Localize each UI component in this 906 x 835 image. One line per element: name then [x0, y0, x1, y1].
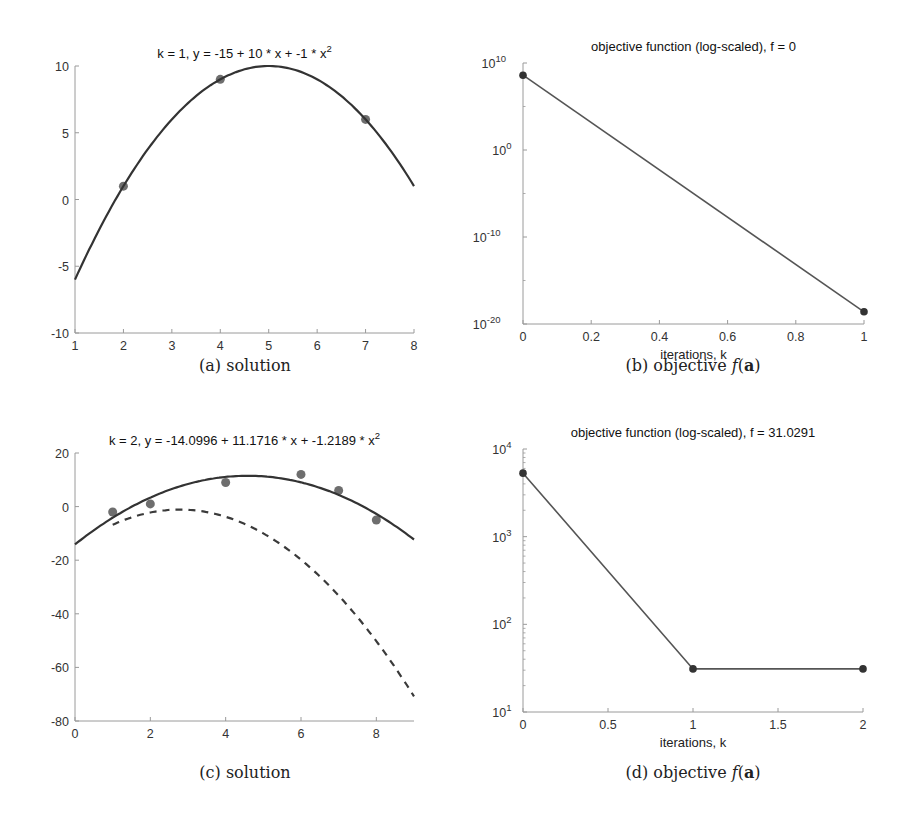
y-tick-label: 104	[492, 439, 511, 457]
fit-curve	[75, 66, 414, 280]
x-tick-label: 6	[314, 339, 321, 353]
x-tick-label: 1.5	[769, 718, 786, 732]
data-point	[146, 499, 155, 508]
x-tick-label: 0.5	[599, 718, 616, 732]
y-tick-label: -60	[51, 661, 69, 675]
x-tick-label: 3	[168, 339, 175, 353]
x-tick-label: 1	[72, 339, 79, 353]
objective-line	[523, 75, 864, 312]
fit-curve	[75, 476, 414, 545]
data-point	[221, 478, 230, 487]
caption-b-arg: a	[744, 356, 754, 375]
x-tick-label: 2	[147, 727, 154, 741]
y-tick-label: 10-20	[473, 314, 501, 332]
y-tick-label: 5	[62, 127, 69, 141]
objective-point	[859, 665, 867, 673]
y-tick-label: 103	[492, 527, 511, 545]
x-axis-label: iterations, k	[660, 735, 727, 750]
figure: 12345678-10-50510k = 1, y = -15 + 10 * x…	[0, 0, 906, 835]
y-tick-label: 100	[492, 140, 511, 158]
chart-title: objective function (log-scaled), f = 31.…	[571, 425, 816, 440]
y-tick-label: 20	[55, 447, 69, 461]
x-tick-label: 8	[411, 339, 418, 353]
x-tick-label: 0	[72, 727, 79, 741]
caption-c: (c) solution	[95, 763, 395, 782]
caption-a: (a) solution	[95, 356, 395, 375]
x-tick-label: 0.6	[719, 330, 736, 344]
x-tick-label: 0.2	[583, 330, 600, 344]
x-tick-label: 0.4	[651, 330, 668, 344]
panel-d-objective-plot: 00.511.52101102103104objective function …	[492, 425, 867, 750]
caption-d-text: (d) objective	[625, 763, 726, 782]
y-tick-label: 0	[62, 194, 69, 208]
y-tick-label: -40	[51, 608, 69, 622]
y-tick-label: 101	[492, 702, 511, 720]
chart-title: k = 2, y = -14.0996 + 11.1716 * x + -1.2…	[109, 430, 380, 448]
caption-b-math: f	[732, 356, 738, 375]
y-tick-label: 10	[55, 60, 69, 74]
chart-title: objective function (log-scaled), f = 0	[591, 39, 796, 54]
objective-point	[860, 308, 868, 316]
caption-d-arg: a	[744, 763, 754, 782]
objective-point	[519, 469, 527, 477]
y-tick-label: -20	[51, 554, 69, 568]
y-tick-label: -5	[58, 260, 69, 274]
x-tick-label: 0	[520, 718, 527, 732]
panel-a-solution-plot: 12345678-10-50510k = 1, y = -15 + 10 * x…	[51, 43, 418, 353]
x-tick-label: 2	[860, 718, 867, 732]
previous-fit-curve	[113, 510, 414, 697]
caption-a-text: (a) solution	[199, 356, 291, 375]
x-tick-label: 0.8	[787, 330, 804, 344]
caption-c-text: (c) solution	[199, 763, 290, 782]
x-tick-label: 2	[120, 339, 127, 353]
caption-b: (b) objective f(a)	[543, 356, 843, 375]
x-tick-label: 7	[362, 339, 369, 353]
objective-point	[519, 71, 527, 79]
x-tick-label: 1	[690, 718, 697, 732]
caption-d: (d) objective f(a)	[543, 763, 843, 782]
x-tick-label: 8	[373, 727, 380, 741]
objective-point	[689, 665, 697, 673]
y-tick-label: -10	[51, 327, 69, 341]
panel-b-objective-plot: 00.20.40.60.8110-2010-101001010objective…	[473, 39, 868, 362]
data-point	[297, 470, 306, 479]
y-tick-label: 10-10	[473, 227, 501, 245]
x-tick-label: 1	[861, 330, 868, 344]
panel-c-solution-plot: 02468-80-60-40-20020k = 2, y = -14.0996 …	[51, 430, 414, 741]
y-tick-label: -80	[51, 715, 69, 729]
objective-line	[523, 473, 863, 669]
x-tick-label: 6	[298, 727, 305, 741]
caption-d-math: f	[732, 763, 738, 782]
x-tick-label: 4	[222, 727, 229, 741]
x-tick-label: 4	[217, 339, 224, 353]
x-tick-label: 0	[520, 330, 527, 344]
y-tick-label: 1010	[482, 53, 506, 71]
x-tick-label: 5	[265, 339, 272, 353]
y-tick-label: 0	[62, 501, 69, 515]
y-tick-label: 102	[492, 614, 511, 632]
caption-b-text: (b) objective	[625, 356, 726, 375]
chart-title: k = 1, y = -15 + 10 * x + -1 * x2	[157, 43, 331, 61]
